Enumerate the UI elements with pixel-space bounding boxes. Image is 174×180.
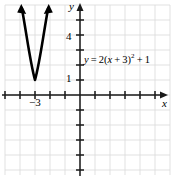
y-axis-arrow <box>77 3 84 11</box>
coordinate-plane <box>0 0 174 180</box>
x-axis-label: x <box>162 98 167 109</box>
graph-figure: y x 4 1 −3 y = 2(x + 3)2 + 1 <box>0 0 174 180</box>
curve-arrow-right <box>44 4 53 14</box>
equation-plus-three: + 3) <box>112 54 131 65</box>
equation-equals: = <box>89 54 99 65</box>
equation-plus-one: + 1 <box>135 54 150 65</box>
equation-annotation: y = 2(x + 3)2 + 1 <box>84 53 150 65</box>
y-tick-label-4: 4 <box>66 31 72 42</box>
x-axis <box>2 92 168 99</box>
y-axis <box>77 3 84 176</box>
curve-arrow-left <box>17 4 26 14</box>
y-axis-label: y <box>69 1 74 12</box>
equation-coefficient: 2( <box>99 54 108 65</box>
y-tick-label-1: 1 <box>66 73 72 84</box>
grid-lines <box>5 5 170 175</box>
x-tick-label-negative-3: −3 <box>29 97 41 108</box>
